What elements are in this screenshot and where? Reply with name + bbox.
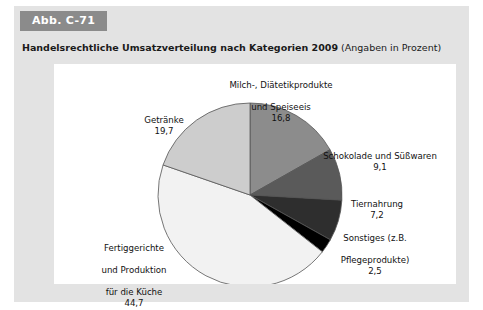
chart-plot-area: Milch-, Diätetikprodukte und Speiseeis 1… (54, 64, 456, 284)
pie-label-sonstiges-line2: Pflegeprodukte) (341, 255, 410, 265)
pie-label-milch: Milch-, Diätetikprodukte und Speiseeis 1… (206, 69, 356, 135)
figure-title-main: Handelsrechtliche Umsatzverteilung nach … (22, 42, 338, 53)
pie-label-fertiggerichte: Fertiggerichte und Produktion für die Kü… (72, 232, 196, 310)
pie-label-getraenke-value: 19,7 (112, 126, 216, 137)
pie-label-milch-value: 16,8 (206, 113, 356, 124)
pie-label-sonstiges: Sonstiges (z.B. Pflegeprodukte) 2,5 (312, 222, 438, 288)
figure-badge: Abb. C-71 (20, 11, 107, 31)
pie-label-getraenke: Getränke 19,7 (112, 104, 216, 148)
figure-container: Abb. C-71 Handelsrechtliche Umsatzvertei… (14, 6, 469, 302)
pie-label-schokolade: Schokolade und Süßwaren 9,1 (304, 140, 456, 184)
pie-label-fertiggerichte-line3: für die Küche (106, 287, 163, 297)
pie-label-fertiggerichte-line2: und Produktion (101, 265, 166, 275)
pie-label-sonstiges-line1: Sonstiges (z.B. (343, 233, 407, 243)
pie-label-schokolade-line1: Schokolade und Süßwaren (323, 151, 437, 161)
pie-label-milch-line2: und Speiseeis (251, 102, 311, 112)
pie-label-getraenke-line1: Getränke (144, 115, 184, 125)
pie-label-tiernahrung-value: 7,2 (322, 210, 432, 221)
figure-title-suffix: (Angaben in Prozent) (338, 42, 441, 53)
pie-label-fertiggerichte-line1: Fertiggerichte (104, 243, 164, 253)
pie-label-tiernahrung-line1: Tiernahrung (351, 199, 403, 209)
figure-title: Handelsrechtliche Umsatzverteilung nach … (22, 42, 462, 53)
pie-label-sonstiges-value: 2,5 (312, 266, 438, 277)
pie-label-fertiggerichte-value: 44,7 (72, 298, 196, 309)
pie-label-milch-line1: Milch-, Diätetikprodukte (229, 80, 332, 90)
pie-label-schokolade-value: 9,1 (304, 162, 456, 173)
